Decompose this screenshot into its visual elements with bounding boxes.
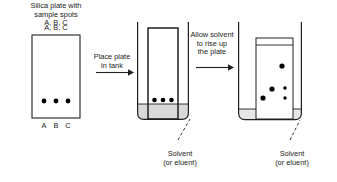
sample-spot-b: [54, 99, 59, 104]
plate-top-letters: A, B, C: [32, 24, 80, 33]
tank-developed-group: [239, 22, 302, 120]
arrow-step2: [196, 64, 234, 70]
step1-caption: Place plate in tank: [86, 53, 138, 70]
step2-caption: Allow solvent to rise up the plate: [182, 31, 242, 57]
plate-in-tank-right: [256, 38, 293, 119]
spot-middle-a: [152, 98, 157, 103]
pointer-solvent-middle: [178, 119, 190, 140]
chromatography-diagram: Silica plate with sample spots A, B, C A…: [0, 0, 337, 182]
sample-spot-c: [66, 99, 71, 104]
plate-letter-a: A: [38, 122, 50, 131]
separated-spot-2: [269, 86, 274, 91]
plate-letter-c: C: [62, 122, 74, 131]
solvent-caption-middle: Solvent (or eluent): [146, 150, 214, 167]
silica-plate-group: [32, 35, 80, 118]
silica-plate-rect: [32, 35, 80, 118]
separated-spot-1: [279, 63, 284, 68]
spot-middle-b: [161, 98, 166, 103]
sample-spot-a: [42, 99, 47, 104]
separated-spot-5: [283, 96, 286, 99]
separated-spot-3: [283, 86, 286, 89]
solvent-caption-right: Solvent (or eluent): [258, 150, 326, 167]
pointer-solvent-right: [290, 120, 300, 140]
spot-middle-c: [169, 98, 174, 103]
plate-letter-b: B: [50, 122, 62, 131]
separated-spot-4: [260, 95, 265, 100]
tank-inserted-group: [138, 22, 189, 119]
plate-face-middle: [149, 29, 177, 103]
